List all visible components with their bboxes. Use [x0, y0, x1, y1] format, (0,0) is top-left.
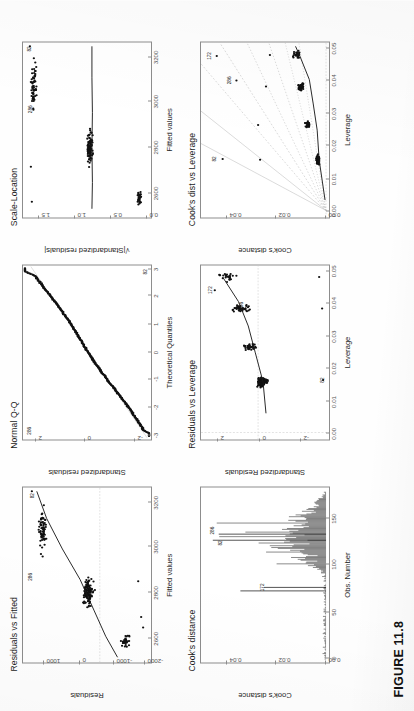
x-tick-label: 0.04 [330, 297, 337, 309]
panel-cooks-distance: Cook's distance 172 82 286 0.04 0.02 0.0… [186, 480, 360, 697]
x-axis-ticks: 0.00 0.01 0.02 0.03 0.04 0.05 [330, 264, 340, 441]
point-label: 286 [238, 302, 244, 310]
panel-residuals-vs-leverage: Residuals vs Leverage 172 286 82 2 0 [186, 258, 360, 475]
panel-title: Scale-Location [9, 167, 19, 225]
x-tick-label: -2 [152, 404, 159, 410]
x-tick-label: 0.04 [330, 74, 337, 86]
y-tick-label: 0.02 [279, 212, 291, 219]
panel-title: Residuals vs Fitted [9, 597, 19, 672]
cooks-dist-vs-leverage-labels: 172 286 82 [201, 42, 329, 217]
y-axis-label: Residuals [27, 691, 147, 700]
y-axis-label: Standardized Residuals [205, 468, 325, 477]
y-tick-label: 0.5 [114, 212, 123, 219]
x-tick-label: 2600 [152, 631, 159, 645]
x-axis-label: Fitted values [165, 41, 174, 218]
x-tick-label: 3000 [152, 540, 159, 554]
point-label: 82 [142, 269, 148, 274]
y-axis-ticks: 2 0 -2 [22, 438, 152, 448]
plot-area: 172 82 286 [200, 486, 330, 663]
y-tick-label: 0.02 [279, 657, 291, 664]
panel-residuals-vs-fitted: Residuals vs Fitted 286 82 1000 0 -1000 [8, 480, 182, 697]
point-label: 82 [29, 492, 35, 497]
y-axis-ticks: 1.5 1.0 0.5 0.0 [22, 216, 152, 226]
point-label: 286 [225, 75, 231, 83]
point-label: 286 [27, 104, 33, 112]
x-axis-label: Theoretical Quantiles [165, 264, 174, 441]
point-label: 286 [27, 572, 33, 580]
x-tick-label: 0 [330, 656, 337, 659]
point-label: 82 [216, 540, 222, 545]
x-tick-label: 150 [330, 513, 337, 523]
panel-cooks-dist-vs-leverage: Cook's dist vs Leverage 172 286 82 0.04 … [186, 35, 360, 252]
x-tick-label: 0.02 [330, 139, 337, 151]
x-axis-ticks: 0 50 100 150 [330, 486, 340, 663]
x-tick-label: 1 [152, 322, 159, 325]
residuals-vs-fitted-labels: 286 82 [23, 487, 151, 662]
y-tick-label: 0 [88, 434, 91, 441]
scale-location-labels: 286 82 [23, 42, 151, 217]
y-tick-label: 1.5 [41, 212, 50, 219]
y-tick-label: 1.0 [78, 212, 87, 219]
x-tick-label: 2800 [152, 140, 159, 154]
x-tick-label: 3000 [152, 94, 159, 108]
x-tick-label: 0.02 [330, 362, 337, 374]
x-axis-label: Obs. Number [343, 486, 352, 663]
x-tick-label: 3 [152, 267, 159, 270]
x-tick-label: 0.03 [330, 330, 337, 342]
plot-area: 172 286 82 [200, 264, 330, 441]
y-tick-label: 1000 [46, 657, 60, 664]
point-label: 82 [26, 45, 32, 50]
plot-area: 172 286 82 [200, 41, 330, 218]
x-axis-ticks: 0.00 0.01 0.02 0.03 0.04 0.05 [330, 41, 340, 218]
residuals-vs-leverage-labels: 172 286 82 [201, 265, 329, 440]
x-tick-label: 0.00 [330, 427, 337, 439]
x-tick-label: -3 [152, 432, 159, 438]
x-axis-ticks: 2600 2800 3000 3200 [152, 41, 162, 218]
x-axis-label: Leverage [343, 264, 352, 441]
x-tick-label: 0.03 [330, 107, 337, 119]
y-tick-label: -1000 [117, 657, 133, 664]
point-label: 172 [207, 286, 213, 294]
y-tick-label: 0.04 [230, 657, 242, 664]
x-tick-label: -1 [152, 376, 159, 382]
x-tick-label: 50 [330, 608, 337, 615]
diagnostic-plot-grid: Residuals vs Fitted 286 82 1000 0 -1000 [8, 35, 360, 697]
x-tick-label: 0.01 [330, 173, 337, 185]
plot-area: 286 82 [22, 41, 152, 218]
x-tick-label: 2600 [152, 186, 159, 200]
point-label: 82 [210, 155, 216, 160]
y-tick-label: -2 [137, 434, 143, 441]
y-axis-label: Cook's distance [205, 245, 325, 254]
y-axis-ticks: 0.04 0.02 0.00 [200, 661, 330, 671]
y-axis-ticks: 1000 0 -1000 -2000 [22, 661, 152, 671]
scanned-page: Residuals vs Fitted 286 82 1000 0 -1000 [0, 0, 414, 711]
panel-normal-qq: Normal Q-Q 286 82 2 0 -2 Standardized [8, 258, 182, 475]
panel-title: Residuals vs Leverage [187, 359, 197, 448]
panel-title: Cook's dist vs Leverage [187, 132, 197, 225]
x-tick-label: 3200 [152, 50, 159, 64]
point-label: 286 [26, 426, 32, 434]
x-tick-label: 0.05 [330, 265, 337, 277]
y-tick-label: 0 [262, 434, 265, 441]
x-tick-label: 2800 [152, 585, 159, 599]
cooks-distance-labels: 172 82 286 [201, 487, 329, 662]
y-axis-ticks: 0.04 0.02 0.00 [200, 216, 330, 226]
x-axis-ticks: 2600 2800 3000 3200 [152, 486, 162, 663]
point-label: 172 [259, 583, 265, 591]
normal-qq-labels: 286 82 [23, 265, 151, 440]
y-tick-label: 2 [39, 434, 42, 441]
plot-area: 286 82 [22, 264, 152, 441]
x-tick-label: 0.00 [330, 205, 337, 217]
y-axis-label: Standardized residuals [27, 468, 147, 477]
x-tick-label: 3200 [152, 495, 159, 509]
panel-title: Cook's distance [187, 609, 197, 671]
y-tick-label: 0.04 [230, 212, 242, 219]
x-tick-label: 0.05 [330, 42, 337, 54]
point-label: 172 [206, 51, 212, 59]
x-tick-label: 0 [152, 350, 159, 353]
y-tick-label: 0 [83, 657, 86, 664]
y-tick-label: -2 [304, 434, 310, 441]
x-tick-label: 0.01 [330, 395, 337, 407]
plot-area: 286 82 [22, 486, 152, 663]
y-axis-label: Cook's distance [205, 691, 325, 700]
